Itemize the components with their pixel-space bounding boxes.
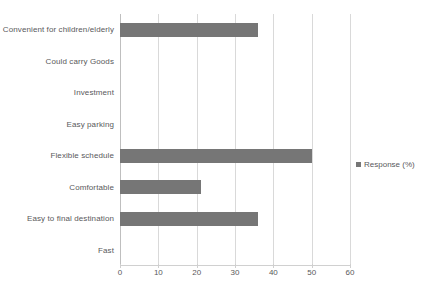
bar-row bbox=[120, 109, 350, 141]
category-axis-labels: Convenient for children/elderly Could ca… bbox=[0, 14, 114, 266]
category-label: Could carry Goods bbox=[0, 46, 114, 78]
category-label: Investment bbox=[0, 77, 114, 109]
category-label: Easy parking bbox=[0, 109, 114, 141]
bar bbox=[120, 149, 312, 163]
value-axis-tick-label: 10 bbox=[154, 268, 163, 277]
legend: Response (%) bbox=[356, 160, 415, 169]
value-axis-tick-label: 60 bbox=[346, 268, 355, 277]
bar-row bbox=[120, 14, 350, 46]
bar-row bbox=[120, 77, 350, 109]
value-axis-tick-label: 50 bbox=[307, 268, 316, 277]
bar-row bbox=[120, 203, 350, 235]
value-axis-tick-label: 30 bbox=[231, 268, 240, 277]
bar bbox=[120, 212, 258, 226]
gridline bbox=[350, 14, 351, 266]
bar-row bbox=[120, 235, 350, 267]
legend-swatch-icon bbox=[356, 162, 361, 167]
bar-rows bbox=[120, 14, 350, 266]
category-label: Comfortable bbox=[0, 172, 114, 204]
bar-row bbox=[120, 140, 350, 172]
category-label: Easy to final destination bbox=[0, 203, 114, 235]
category-label: Convenient for children/elderly bbox=[0, 14, 114, 46]
bar-row bbox=[120, 46, 350, 78]
legend-label: Response (%) bbox=[364, 160, 415, 169]
category-label: Flexible schedule bbox=[0, 140, 114, 172]
horizontal-bar-chart: Convenient for children/elderly Could ca… bbox=[0, 0, 422, 293]
value-axis-tick-label: 0 bbox=[118, 268, 122, 277]
bar bbox=[120, 180, 201, 194]
value-axis-ticks: 0102030405060 bbox=[120, 268, 350, 284]
value-axis-tick-label: 20 bbox=[192, 268, 201, 277]
value-axis-tick-label: 40 bbox=[269, 268, 278, 277]
bar bbox=[120, 23, 258, 37]
plot-area bbox=[120, 14, 350, 266]
bar-row bbox=[120, 172, 350, 204]
category-label: Fast bbox=[0, 235, 114, 267]
